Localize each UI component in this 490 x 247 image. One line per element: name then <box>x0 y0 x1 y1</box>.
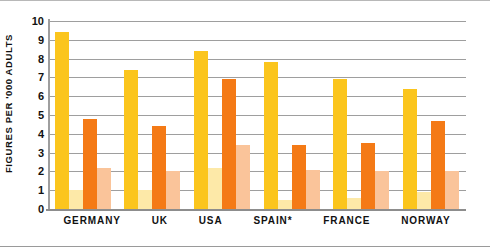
bar-chart: FIGURES PER '000 ADULTS 109876543210 GER… <box>0 0 490 247</box>
bar-series-1 <box>403 89 417 209</box>
y-tick-label: 3 <box>22 147 44 158</box>
bar-series-4 <box>375 171 389 209</box>
bar-series-3 <box>361 143 375 209</box>
bar-series-4 <box>306 170 320 209</box>
y-tick-label: 10 <box>22 16 44 27</box>
bar-groups <box>48 21 466 209</box>
y-tick-label: 6 <box>22 91 44 102</box>
bar-series-2 <box>278 200 292 209</box>
bar-group <box>403 21 459 209</box>
x-axis-line <box>46 209 466 211</box>
bar-series-1 <box>55 32 69 209</box>
bar-series-4 <box>236 145 250 209</box>
y-tick-label: 9 <box>22 34 44 45</box>
bar-series-2 <box>208 168 222 209</box>
bar-series-3 <box>292 145 306 209</box>
y-tick-label: 1 <box>22 185 44 196</box>
x-category-label: GERMANY <box>63 215 120 226</box>
bar-series-1 <box>124 70 138 209</box>
x-category-label: NORWAY <box>401 215 450 226</box>
bar-series-1 <box>264 62 278 209</box>
y-axis-title-label: FIGURES PER '000 ADULTS <box>4 34 15 173</box>
y-tick-label: 0 <box>22 204 44 215</box>
y-axis-tick-labels: 109876543210 <box>22 21 44 209</box>
x-category-label: SPAIN* <box>253 215 292 226</box>
x-category-label: USA <box>199 215 223 226</box>
bar-series-4 <box>445 171 459 209</box>
bar-group <box>124 21 180 209</box>
y-tick-label: 8 <box>22 53 44 64</box>
y-tick-label: 4 <box>22 128 44 139</box>
bar-series-3 <box>222 79 236 209</box>
bar-group <box>55 21 111 209</box>
bar-series-4 <box>97 168 111 209</box>
bar-series-3 <box>83 119 97 209</box>
bar-series-1 <box>333 79 347 209</box>
y-tick-label: 2 <box>22 166 44 177</box>
bar-series-3 <box>152 126 166 209</box>
bar-group <box>264 21 320 209</box>
bar-series-2 <box>347 198 361 209</box>
bar-group <box>333 21 389 209</box>
y-tick-label: 5 <box>22 110 44 121</box>
bar-series-4 <box>166 171 180 209</box>
bar-series-2 <box>138 190 152 209</box>
x-category-label: FRANCE <box>323 215 370 226</box>
y-tick-label: 7 <box>22 72 44 83</box>
bar-series-3 <box>431 121 445 209</box>
x-category-label: UK <box>152 215 168 226</box>
bar-series-1 <box>194 51 208 209</box>
plot-area <box>48 21 466 209</box>
bar-series-2 <box>417 192 431 209</box>
bar-group <box>194 21 250 209</box>
x-axis-category-labels: GERMANYUKUSASPAIN*FRANCENORWAY <box>48 215 466 239</box>
bar-series-2 <box>69 190 83 209</box>
y-axis-title: FIGURES PER '000 ADULTS <box>0 1 18 206</box>
